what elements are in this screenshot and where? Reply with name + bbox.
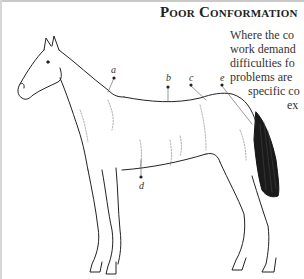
label-e: e (220, 72, 224, 83)
label-d: d (139, 180, 144, 191)
label-a: a (111, 64, 116, 75)
book-page: Poor Conformation Where the co work dema… (0, 0, 304, 279)
horse-illustration (0, 0, 304, 279)
label-b: b (166, 72, 171, 83)
label-c: c (189, 72, 193, 83)
